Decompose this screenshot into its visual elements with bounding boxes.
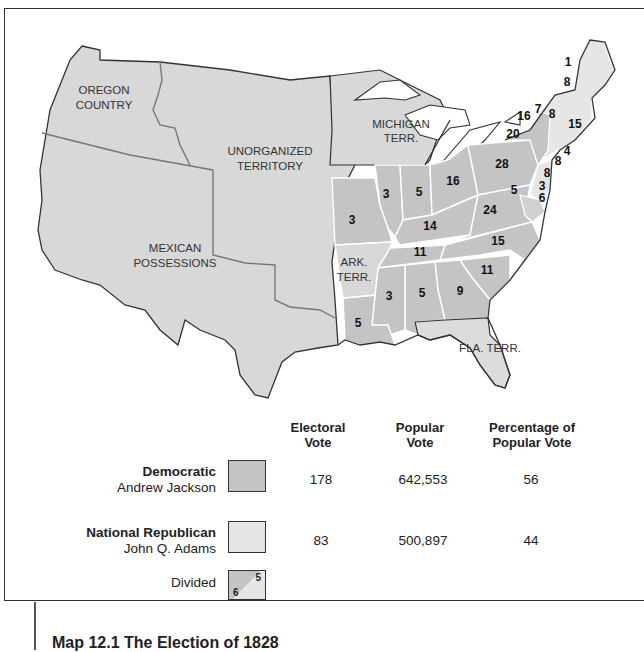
svg-text:9: 9 xyxy=(457,284,464,298)
swatch-democratic xyxy=(228,460,266,492)
svg-text:TERRITORY: TERRITORY xyxy=(237,160,303,172)
svg-text:16: 16 xyxy=(517,109,531,123)
svg-text:11: 11 xyxy=(414,245,427,259)
popular-vote-header: Popular Vote xyxy=(385,420,455,450)
svg-text:3: 3 xyxy=(349,213,356,227)
svg-text:POSSESSIONS: POSSESSIONS xyxy=(133,257,216,269)
svg-text:14: 14 xyxy=(423,219,437,233)
democratic-popular: 642,553 xyxy=(378,472,468,487)
svg-text:ARK.: ARK. xyxy=(341,256,368,268)
map-caption: Map 12.1 The Election of 1828 xyxy=(52,634,279,652)
svg-text:TERR.: TERR. xyxy=(337,271,372,283)
svg-text:15: 15 xyxy=(568,117,582,131)
svg-text:MEXICAN: MEXICAN xyxy=(149,242,201,254)
svg-text:5: 5 xyxy=(355,316,362,330)
divided-label: Divided xyxy=(171,575,216,591)
national-republican-percentage: 44 xyxy=(486,533,576,548)
svg-text:11: 11 xyxy=(481,263,494,277)
swatch-national-republican xyxy=(228,521,266,553)
svg-text:24: 24 xyxy=(483,203,497,217)
caption-rule xyxy=(34,602,36,650)
democratic-percentage: 56 xyxy=(486,472,576,487)
svg-text:20: 20 xyxy=(506,127,520,141)
svg-text:3: 3 xyxy=(383,187,390,201)
svg-text:8: 8 xyxy=(544,166,551,180)
svg-text:3: 3 xyxy=(386,289,393,303)
svg-text:6: 6 xyxy=(539,191,546,205)
party-democratic: Democratic Andrew Jackson xyxy=(117,464,216,496)
national-republican-popular: 500,897 xyxy=(378,533,468,548)
svg-text:COUNTRY: COUNTRY xyxy=(76,99,133,111)
svg-text:5: 5 xyxy=(419,286,426,300)
svg-text:OREGON: OREGON xyxy=(78,84,129,96)
democratic-electoral: 178 xyxy=(276,472,366,487)
svg-text:16: 16 xyxy=(446,174,460,188)
party-national-republican: National Republican John Q. Adams xyxy=(86,525,216,557)
electoral-vote-header: Electoral Vote xyxy=(283,420,353,450)
svg-text:15: 15 xyxy=(491,234,505,248)
svg-text:28: 28 xyxy=(495,157,509,171)
percentage-header: Percentage of Popular Vote xyxy=(472,420,592,450)
election-legend: Electoral Vote Popular Vote Percentage o… xyxy=(0,412,624,592)
svg-text:4: 4 xyxy=(564,144,571,158)
svg-text:8: 8 xyxy=(549,107,556,121)
svg-text:FLA. TERR.: FLA. TERR. xyxy=(459,342,521,354)
svg-text:5: 5 xyxy=(511,183,518,197)
svg-text:UNORGANIZED: UNORGANIZED xyxy=(228,145,313,157)
svg-text:TERR.: TERR. xyxy=(384,132,419,144)
national-republican-electoral: 83 xyxy=(276,533,366,548)
svg-text:1: 1 xyxy=(565,55,572,69)
svg-text:MICHIGAN: MICHIGAN xyxy=(372,118,430,130)
svg-text:5: 5 xyxy=(416,185,423,199)
election-map: OREGON COUNTRY UNORGANIZED TERRITORY MEX… xyxy=(0,0,624,412)
svg-text:8: 8 xyxy=(555,154,562,168)
svg-text:7: 7 xyxy=(535,102,542,116)
svg-text:8: 8 xyxy=(564,75,571,89)
swatch-divided: 5 6 xyxy=(228,570,266,600)
